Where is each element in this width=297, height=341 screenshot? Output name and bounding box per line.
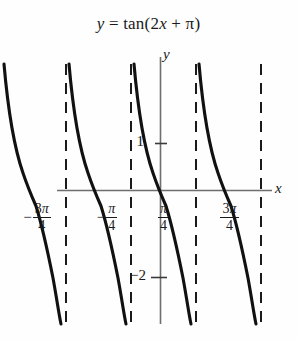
x-tick-num-coef-neg-3pi-4: 3 xyxy=(35,201,42,216)
y-axis-label: y xyxy=(163,46,170,63)
x-tick-label-3pi-4: 3π4 xyxy=(200,202,258,233)
x-tick-num-pi-neg-pi-4: π xyxy=(108,201,115,216)
x-tick-num-pi-neg-3pi-4: π xyxy=(42,201,49,216)
y-tick-label-neg2: −2 xyxy=(120,267,146,284)
plot-area xyxy=(0,0,297,341)
x-tick-label-pi-4: π4 xyxy=(140,202,186,233)
y-tick-label-1: 1 xyxy=(126,133,144,150)
x-tick-sign-neg-3pi-4: − xyxy=(23,210,32,225)
tangent-branch-left xyxy=(134,64,191,324)
x-tick-num-pi-3pi-4: π xyxy=(229,201,236,216)
x-tick-label-neg-3pi-4: −3π4 xyxy=(8,202,66,233)
tangent-branch-right xyxy=(4,64,61,324)
tangent-branch-left-partial xyxy=(69,64,126,324)
x-tick-sign-neg-pi-4: − xyxy=(97,210,106,225)
tangent-branch-center xyxy=(199,64,256,324)
x-axis-label: x xyxy=(275,180,282,197)
x-tick-den-neg-pi-4: 4 xyxy=(106,218,117,233)
x-tick-den-pi-4: 4 xyxy=(158,218,169,233)
tangent-function-figure: y = tan(2x + π) y x 1 −2 −3π4 xyxy=(0,0,297,341)
x-tick-den-3pi-4: 4 xyxy=(220,218,238,233)
x-tick-den-neg-3pi-4: 4 xyxy=(33,218,51,233)
x-tick-label-neg-pi-4: −π4 xyxy=(84,202,130,233)
x-tick-num-pi-pi-4: π xyxy=(160,201,167,216)
